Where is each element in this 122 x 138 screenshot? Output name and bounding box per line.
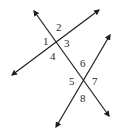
angle-label-7: 7 xyxy=(92,75,98,87)
angle-label-3: 3 xyxy=(64,37,70,49)
upper-line xyxy=(12,10,99,75)
angle-label-5: 5 xyxy=(69,75,75,87)
angle-label-1: 1 xyxy=(43,35,49,47)
angle-label-2: 2 xyxy=(56,21,62,33)
angle-label-8: 8 xyxy=(80,92,86,104)
angle-label-4: 4 xyxy=(50,50,56,62)
transversal-diagram: 1 2 3 4 5 6 7 8 xyxy=(0,0,122,138)
angle-label-6: 6 xyxy=(80,57,86,69)
